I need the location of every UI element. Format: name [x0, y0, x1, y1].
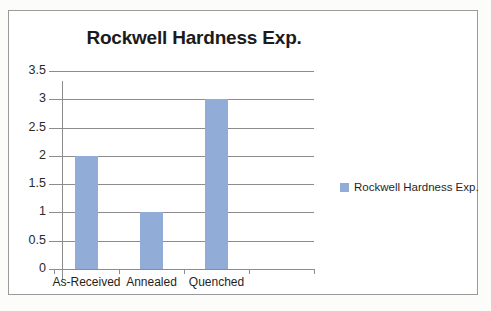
- y-axis-tick-label-text: 0.5: [2, 234, 46, 247]
- y-axis-tick-label: 2: [2, 149, 46, 163]
- y-axis-tick: [49, 99, 54, 100]
- gridline: [54, 99, 314, 100]
- y-axis-tick: [49, 71, 54, 72]
- y-axis-line: [62, 81, 63, 280]
- y-axis-tick: [49, 212, 54, 213]
- bar: [205, 99, 228, 269]
- y-axis-tick-label: 3.5: [2, 64, 46, 78]
- y-axis-tick-label: 0: [2, 262, 46, 276]
- y-axis-tick: [49, 241, 54, 242]
- bar: [140, 212, 163, 269]
- legend-entry-label: Rockwell Hardness Exp.: [354, 182, 479, 194]
- chart-title: Rockwell Hardness Exp.: [54, 27, 334, 49]
- legend-swatch-icon: [340, 183, 349, 192]
- y-axis-tick-label-text: 2.5: [2, 121, 46, 134]
- x-axis-tick: [119, 269, 120, 274]
- chart-frame: Rockwell Hardness Exp. 00.511.522.533.5 …: [8, 10, 478, 295]
- bar: [75, 156, 98, 269]
- y-axis-tick: [49, 128, 54, 129]
- gridline: [54, 128, 314, 129]
- y-axis-tick-label-text: 2: [2, 149, 46, 162]
- y-axis-tick-label-text: 0: [2, 262, 46, 275]
- y-axis-tick-label: 2.5: [2, 121, 46, 135]
- x-axis-tick: [249, 269, 250, 274]
- x-axis-tick: [184, 269, 185, 274]
- y-axis-tick-label-text: 1.5: [2, 177, 46, 190]
- y-axis-tick-label: 0.5: [2, 234, 46, 248]
- x-axis-tick: [54, 269, 55, 274]
- x-axis-tick-label: Quenched: [157, 276, 277, 288]
- y-axis-tick-label: 3: [2, 92, 46, 106]
- y-axis-tick: [49, 156, 54, 157]
- y-axis-tick: [49, 184, 54, 185]
- x-axis-tick: [314, 269, 315, 274]
- y-axis-tick-label: 1.5: [2, 177, 46, 191]
- gridline: [54, 71, 314, 72]
- y-axis-tick-label-text: 3: [2, 92, 46, 105]
- y-axis-tick-label-text: 3.5: [2, 64, 46, 77]
- chart-legend: Rockwell Hardness Exp.: [340, 182, 479, 194]
- y-axis-tick-label-text: 1: [2, 205, 46, 218]
- y-axis-tick-label: 1: [2, 205, 46, 219]
